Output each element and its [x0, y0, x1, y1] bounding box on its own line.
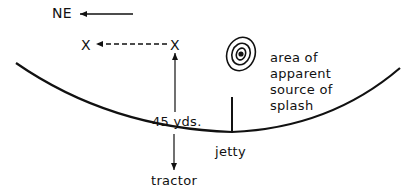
tractor-label: tractor	[151, 173, 197, 188]
splash-area-label: area of apparent source of splash	[270, 50, 333, 114]
splash-area-line: splash	[270, 98, 333, 114]
splash-rings-icon	[222, 33, 260, 75]
distance-label: 45 yds.	[152, 114, 202, 129]
compass-label: NE	[52, 6, 72, 21]
shoreline-curve	[16, 63, 400, 132]
diagram-canvas	[0, 0, 413, 189]
marker-x-right: X	[170, 38, 180, 53]
splash-area-line: area of	[270, 50, 333, 66]
jetty-label: jetty	[215, 144, 246, 159]
marker-x-left: X	[81, 38, 91, 53]
splash-area-line: source of	[270, 82, 333, 98]
splash-area-line: apparent	[270, 66, 333, 82]
